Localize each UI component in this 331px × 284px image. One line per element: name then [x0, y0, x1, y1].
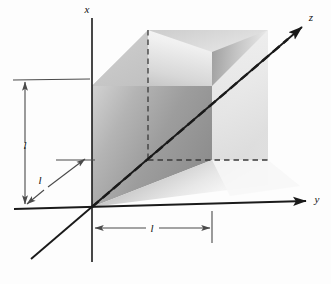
cube-highlight-sweep	[212, 160, 300, 196]
y-axis-label: y	[314, 193, 320, 205]
z-axis-label: z	[308, 11, 314, 23]
horizontal-dimension-label: l	[150, 222, 153, 234]
depth-dimension-group: l	[27, 159, 95, 204]
depth-dimension-label: l	[38, 174, 41, 186]
vertical-dim-extension-line	[13, 79, 90, 80]
vertical-dimension-group: l	[13, 79, 90, 204]
y-axis-line	[14, 201, 306, 209]
vertical-dimension-label: l	[23, 139, 26, 151]
horizontal-dimension-group: l	[95, 211, 212, 243]
depth-dim-arrow-downleft	[27, 190, 44, 204]
depth-dim-arrow-upright	[48, 159, 85, 187]
figure-container: x y z l l l	[0, 0, 331, 284]
x-axis-label: x	[84, 3, 90, 15]
coordinate-cube-diagram: x y z l l l	[0, 0, 331, 284]
